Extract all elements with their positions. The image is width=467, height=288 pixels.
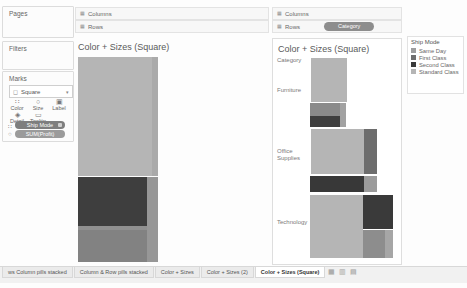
sheet-tab[interactable]: Color + Sizes (Square) bbox=[255, 267, 326, 278]
legend-swatch-icon bbox=[411, 48, 416, 53]
right-rows-label: Rows bbox=[285, 24, 300, 30]
sheet-tab[interactable]: Column & Row pills stacked bbox=[74, 267, 154, 278]
grid-icon: ▦ bbox=[80, 24, 85, 29]
legend-item-label: Same Day bbox=[419, 48, 446, 54]
left-view-title: Color + Sizes (Square) bbox=[78, 42, 169, 52]
mark-office-first[interactable] bbox=[364, 129, 377, 174]
row-label: Furniture bbox=[277, 87, 307, 94]
mark-furniture-second[interactable] bbox=[310, 116, 340, 127]
mark-standard-class-edge[interactable] bbox=[152, 57, 158, 176]
new-dashboard-icon[interactable]: ▥ bbox=[339, 268, 346, 276]
chevron-down-icon: ▾ bbox=[66, 89, 69, 95]
legend-item[interactable]: Standard Class bbox=[411, 68, 460, 75]
right-columns-label: Columns bbox=[285, 11, 309, 17]
size-icon: ○ bbox=[28, 98, 48, 105]
legend-item-label: Second Class bbox=[419, 62, 455, 68]
color-button[interactable]: ∷ Color bbox=[7, 98, 27, 111]
square-mark-icon: ◻ bbox=[13, 88, 18, 95]
row-label: Technology bbox=[277, 219, 307, 226]
color-icon: ∷ bbox=[7, 98, 27, 105]
detail-icon: ◈ bbox=[7, 111, 27, 118]
row-label: Office Supplies bbox=[277, 148, 307, 161]
legend-item-label: First Class bbox=[419, 55, 446, 61]
sum-profit-pill-row: ○ SUM(Profit) bbox=[8, 130, 65, 138]
legend-item-label: Standard Class bbox=[419, 69, 459, 75]
ship-mode-pill-row: ∷ Ship Mode bbox=[8, 121, 65, 129]
legend-swatch-icon bbox=[411, 69, 416, 74]
legend-swatch-icon bbox=[411, 55, 416, 60]
ship-mode-pill-label: Ship Mode bbox=[27, 122, 53, 128]
mark-furniture-first[interactable] bbox=[310, 103, 340, 116]
label-icon: ▣ bbox=[49, 98, 69, 105]
marks-label: Marks bbox=[3, 72, 73, 82]
mark-office-standard[interactable] bbox=[311, 129, 364, 174]
mark-tech-first[interactable] bbox=[363, 230, 385, 258]
sum-profit-pill-label: SUM(Profit) bbox=[26, 131, 55, 137]
right-view-title: Color + Sizes (Square) bbox=[278, 44, 369, 54]
right-rows-shelf[interactable]: ▦ Rows Category bbox=[272, 20, 402, 33]
mark-tech-same-day[interactable] bbox=[385, 230, 393, 258]
grid-icon: ▦ bbox=[277, 11, 282, 16]
mark-type-dropdown[interactable]: ◻ Square ▾ bbox=[9, 85, 73, 98]
mark-office-second[interactable] bbox=[310, 176, 364, 192]
sum-profit-pill[interactable]: SUM(Profit) bbox=[15, 130, 65, 138]
filters-label: Filters bbox=[3, 42, 73, 52]
mark-furniture-same-day[interactable] bbox=[340, 103, 346, 127]
sheet-tab-bar: ws Column pills stackedColumn & Row pill… bbox=[0, 266, 467, 283]
label-button-label: Label bbox=[52, 105, 65, 111]
sheet-tab[interactable]: ws Column pills stacked bbox=[2, 267, 73, 278]
category-pill[interactable]: Category bbox=[324, 22, 374, 31]
pages-label: Pages bbox=[3, 7, 73, 17]
mark-tech-standard[interactable] bbox=[310, 195, 363, 258]
mark-standard-class[interactable] bbox=[78, 57, 152, 176]
grid-icon: ▦ bbox=[80, 11, 85, 16]
sheet-tab[interactable]: Color + Sizes (2) bbox=[201, 267, 254, 278]
new-worksheet-icon[interactable]: ▦ bbox=[328, 268, 335, 276]
mark-second-class[interactable] bbox=[78, 177, 147, 226]
legend-item[interactable]: Same Day bbox=[411, 47, 460, 54]
tableau-window: Pages Filters Marks ◻ Square ▾ ∷ Color ○… bbox=[0, 0, 467, 288]
mark-furniture-standard[interactable] bbox=[311, 58, 347, 102]
size-button[interactable]: ○ Size bbox=[28, 98, 48, 111]
grid-icon: ▦ bbox=[277, 24, 282, 29]
left-columns-label: Columns bbox=[88, 11, 112, 17]
mark-first-class[interactable] bbox=[78, 230, 147, 262]
new-story-icon[interactable]: ▤ bbox=[350, 268, 357, 276]
mark-tech-second[interactable] bbox=[363, 195, 393, 229]
color-shelf-icon: ∷ bbox=[8, 122, 15, 129]
legend-item[interactable]: First Class bbox=[411, 54, 460, 61]
tooltip-icon: ▭ bbox=[28, 111, 48, 118]
legend-item[interactable]: Second Class bbox=[411, 61, 460, 68]
ship-mode-pill[interactable]: Ship Mode bbox=[15, 121, 65, 129]
pages-shelf[interactable]: Pages bbox=[2, 6, 74, 38]
label-button[interactable]: ▣ Label bbox=[49, 98, 69, 111]
right-columns-shelf[interactable]: ▦ Columns bbox=[272, 7, 402, 20]
left-rows-label: Rows bbox=[88, 24, 103, 30]
mark-same-day-strip[interactable] bbox=[147, 177, 158, 262]
pill-badge-icon bbox=[58, 123, 62, 127]
ship-mode-legend: Ship Mode Same DayFirst ClassSecond Clas… bbox=[407, 36, 464, 94]
marks-card: Marks ◻ Square ▾ ∷ Color ○ Size ▣ Label … bbox=[2, 71, 74, 142]
category-column-header: Category bbox=[277, 57, 301, 63]
filters-shelf[interactable]: Filters bbox=[2, 41, 74, 70]
left-columns-shelf[interactable]: ▦ Columns bbox=[75, 7, 269, 20]
mark-office-same-day[interactable] bbox=[364, 176, 377, 192]
legend-swatch-icon bbox=[411, 62, 416, 67]
size-shelf-icon: ○ bbox=[8, 131, 15, 137]
legend-title: Ship Mode bbox=[411, 39, 460, 45]
sheet-tab[interactable]: Color + Sizes bbox=[155, 267, 200, 278]
mark-type-value: Square bbox=[21, 89, 40, 95]
left-rows-shelf[interactable]: ▦ Rows bbox=[75, 20, 269, 33]
